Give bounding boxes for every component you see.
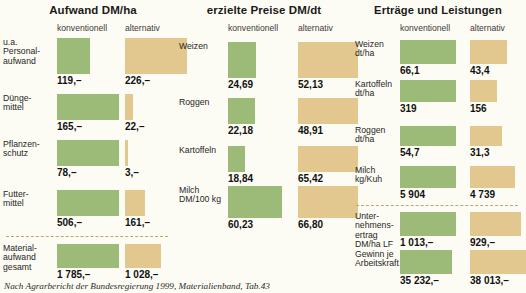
bar-konventionell — [228, 42, 256, 78]
row-label: Pflanzen- schutz — [3, 140, 40, 159]
panel-title: erzielte Preise DM/dt — [176, 4, 352, 16]
group-separator — [6, 236, 168, 237]
value-alternativ: 38 013,– — [470, 275, 509, 286]
value-alternativ: 4 739 — [470, 189, 495, 200]
bar-konventionell — [400, 40, 456, 64]
value-konventionell: 1 013,– — [400, 237, 433, 248]
bar-alternativ — [470, 80, 497, 102]
column-header-alternativ: alternativ — [470, 23, 505, 33]
bar-konventionell — [57, 38, 90, 74]
row-label: Roggen dt/ha — [355, 126, 385, 145]
bar-konventionell — [57, 140, 119, 166]
bar-konventionell — [400, 126, 456, 146]
column-headers: konventionell alternativ — [176, 23, 352, 35]
column-header-alternativ: alternativ — [125, 23, 160, 33]
row-label: Dünge- mittel — [3, 94, 32, 113]
column-headers: konventionell alternativ — [352, 23, 524, 35]
row-label: Futter- mittel — [3, 190, 29, 209]
bar-konventionell — [400, 212, 456, 236]
value-alternativ: 52,13 — [298, 79, 323, 90]
row-label: Weizen — [179, 42, 208, 51]
value-konventionell: 22,18 — [228, 125, 253, 136]
bar-alternativ — [125, 190, 145, 216]
value-alternativ: 3,– — [125, 167, 139, 178]
bar-konventionell — [400, 250, 452, 274]
value-konventionell: 60,23 — [228, 219, 253, 230]
value-alternativ: 22,– — [125, 121, 144, 132]
value-alternativ: 31,3 — [470, 147, 489, 158]
row-label: Milch DM/100 kg — [179, 186, 221, 205]
value-konventionell: 5 904 — [400, 189, 425, 200]
column-headers: konventionell alternativ — [0, 23, 176, 35]
value-alternativ: 43,4 — [470, 65, 489, 76]
bar-alternativ — [470, 212, 521, 236]
value-konventionell: 18,84 — [228, 173, 253, 184]
row-label: u.a. Personal- aufwand — [3, 38, 40, 66]
bar-alternativ — [125, 244, 161, 268]
bar-alternativ — [125, 94, 133, 120]
row-label: Roggen — [179, 98, 209, 107]
value-konventionell: 66,1 — [400, 65, 419, 76]
bar-konventionell — [228, 146, 245, 172]
panel-title: Erträge und Leistungen — [352, 4, 524, 16]
panel-title: Aufwand DM/ha — [0, 4, 176, 16]
row-label: Unter- nehmens- ertrag DM/ha LF — [355, 212, 394, 250]
group-separator — [356, 205, 518, 206]
bar-alternativ — [298, 186, 358, 218]
value-konventionell: 35 232,– — [400, 275, 439, 286]
panel-aufwand: Aufwand DM/ha konventionell alternativ u… — [0, 0, 176, 293]
bar-alternativ — [470, 126, 502, 146]
value-konventionell: 78,– — [57, 167, 76, 178]
value-konventionell: 1 785,– — [57, 269, 90, 280]
panel-preise: erzielte Preise DM/dt konventionell alte… — [176, 0, 352, 293]
bar-konventionell — [228, 98, 255, 124]
bar-konventionell — [57, 244, 119, 268]
column-header-konventionell: konventionell — [400, 23, 450, 33]
value-konventionell: 24,69 — [228, 79, 253, 90]
column-header-alternativ: alternativ — [298, 23, 333, 33]
value-konventionell: 319 — [400, 103, 417, 114]
value-alternativ: 161,– — [125, 217, 150, 228]
row-label: Weizen dt/ha — [355, 40, 384, 59]
value-konventionell: 165,– — [57, 121, 82, 132]
column-header-konventionell: konventionell — [228, 23, 278, 33]
value-alternativ: 929,– — [470, 237, 495, 248]
bar-konventionell — [228, 186, 282, 218]
source-note: Nach Agrarbericht der Bundesregierung 19… — [4, 281, 270, 291]
bar-alternativ — [298, 42, 358, 78]
column-header-konventionell: konventionell — [57, 23, 107, 33]
value-alternativ: 1 028,– — [125, 269, 158, 280]
panel-ertraege: Erträge und Leistungen konventionell alt… — [352, 0, 524, 293]
bar-alternativ — [298, 146, 358, 172]
bar-alternativ — [470, 250, 526, 274]
value-konventionell: 54,7 — [400, 147, 419, 158]
row-label: Kartoffeln — [179, 146, 216, 155]
bar-alternativ — [470, 166, 515, 188]
bar-konventionell — [57, 190, 119, 216]
row-label: Material- aufwand gesamt — [3, 244, 37, 272]
row-label: Gewinn je Arbeitskraft — [355, 250, 399, 269]
bar-konventionell — [400, 166, 456, 188]
bar-alternativ — [470, 40, 507, 64]
value-alternativ: 226,– — [125, 75, 150, 86]
value-alternativ: 65,42 — [298, 173, 323, 184]
value-konventionell: 506,– — [57, 217, 82, 228]
bar-konventionell — [57, 94, 119, 120]
row-label: Milch kg/Kuh — [355, 166, 382, 185]
value-konventionell: 119,– — [57, 75, 81, 86]
value-alternativ: 156 — [470, 103, 487, 114]
bar-alternativ — [298, 98, 358, 124]
value-alternativ: 48,91 — [298, 125, 323, 136]
row-label: Kartoffeln dt/ha — [355, 80, 392, 99]
bar-alternativ — [125, 140, 128, 166]
bar-konventionell — [400, 80, 456, 102]
value-alternativ: 66,80 — [298, 219, 323, 230]
